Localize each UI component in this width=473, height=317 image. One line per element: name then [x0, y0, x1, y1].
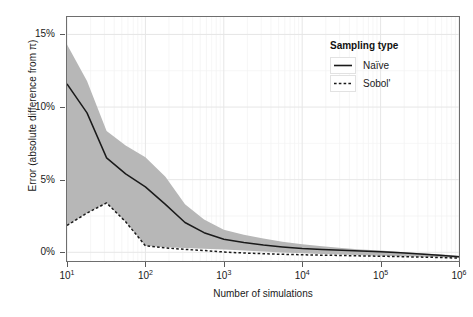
chart-figure: Error (absolute difference from π) 0%5%1… [0, 0, 473, 317]
x-tick-label-0: 101 [47, 270, 87, 281]
plot-canvas [67, 17, 459, 261]
x-tick-mark-1 [145, 262, 146, 267]
x-tick-mark-4 [381, 262, 382, 267]
legend: Sampling type Naïve Sobol' [330, 40, 398, 92]
x-tick-label-4: 105 [361, 270, 401, 281]
legend-key-solid-line-icon [330, 57, 356, 74]
minor-gridlines [67, 17, 459, 261]
y-tick-mark-0 [60, 252, 65, 253]
legend-label-naive: Naïve [363, 60, 389, 71]
major-gridlines [67, 17, 459, 261]
legend-key-dashed-line-icon [330, 75, 356, 92]
x-tick-label-1: 102 [125, 270, 165, 281]
y-tick-label-1: 5% [15, 175, 55, 185]
naive-range-ribbon [67, 45, 459, 258]
y-tick-mark-1 [60, 180, 65, 181]
y-tick-mark-3 [60, 34, 65, 35]
x-tick-label-2: 103 [204, 270, 244, 281]
y-tick-label-0: 0% [15, 247, 55, 257]
x-tick-mark-3 [302, 262, 303, 267]
legend-label-sobol: Sobol' [363, 78, 391, 89]
x-tick-mark-2 [224, 262, 225, 267]
legend-item-naive[interactable]: Naïve [330, 56, 398, 74]
legend-item-sobol[interactable]: Sobol' [330, 74, 398, 92]
y-tick-label-3: 15% [15, 29, 55, 39]
x-tick-mark-5 [459, 262, 460, 267]
plot-panel [66, 16, 460, 262]
x-axis-title: Number of simulations [66, 288, 460, 299]
y-tick-mark-2 [60, 107, 65, 108]
x-tick-mark-0 [67, 262, 68, 267]
y-tick-label-2: 10% [15, 102, 55, 112]
x-tick-label-5: 106 [439, 270, 473, 281]
legend-title: Sampling type [330, 40, 398, 51]
x-tick-label-3: 104 [282, 270, 322, 281]
